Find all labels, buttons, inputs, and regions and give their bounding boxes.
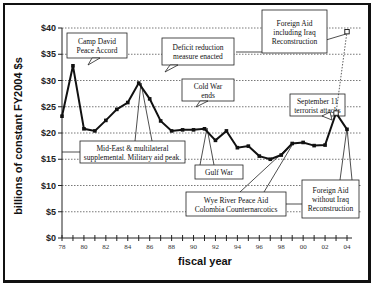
annotation-text: Foreign Aid xyxy=(276,19,312,28)
annotations: Camp DavidPeace AccordDeficit reductionm… xyxy=(62,10,359,218)
data-point xyxy=(345,128,349,132)
data-point xyxy=(93,129,97,133)
data-point xyxy=(192,128,196,132)
data-point xyxy=(104,119,108,123)
annotation-callout: Foreign Aidincluding IraqReconstruction xyxy=(262,10,327,53)
data-point xyxy=(225,129,229,133)
y-tick-label: $5 xyxy=(46,207,56,217)
y-axis-title: billions of constant FY2004 $s xyxy=(12,57,24,215)
x-tick-label: 86 xyxy=(146,243,154,251)
data-point xyxy=(170,129,174,133)
data-point xyxy=(290,142,294,146)
annotation-text: Wye River Peace Aid xyxy=(204,196,269,205)
y-tick-label: $35 xyxy=(41,49,56,59)
x-tick-label: 94 xyxy=(234,243,242,251)
x-tick-label: 80 xyxy=(80,243,88,251)
x-tick-label: 92 xyxy=(212,243,220,251)
y-tick-label: $0 xyxy=(46,233,56,243)
y-tick-label: $20 xyxy=(41,128,56,138)
data-point xyxy=(301,141,305,145)
annotation-callout: Camp DavidPeace Accord xyxy=(67,33,127,65)
x-tick-label: 02 xyxy=(322,243,330,251)
annotation-text: Reconstruction xyxy=(272,37,318,46)
annotation-text: Reconstruction xyxy=(308,204,354,213)
annotation-text: September 11 xyxy=(297,97,338,106)
data-point xyxy=(60,114,64,118)
annotation-text: Cold War xyxy=(194,82,223,91)
x-tick-label: 84 xyxy=(124,243,132,251)
annotation-text: Camp David xyxy=(78,37,116,46)
data-point xyxy=(247,144,251,148)
annotation-callout: Gulf War xyxy=(195,165,243,179)
data-point xyxy=(258,154,262,158)
data-point xyxy=(268,157,272,161)
x-tick-label: 00 xyxy=(300,243,308,251)
y-ticks: $0$5$10$15$20$25$30$35$40 xyxy=(41,23,62,243)
x-tick-label: 82 xyxy=(102,243,110,251)
annotation-text: Mid-East & multilateral xyxy=(96,144,168,153)
x-tick-label: 78 xyxy=(59,243,67,251)
callout-tail xyxy=(196,101,208,107)
annotation-callout: Wye River Peace AidColombia Counternarco… xyxy=(186,192,286,216)
data-point xyxy=(159,119,163,123)
x-tick-label: 04 xyxy=(344,243,352,251)
leader-line xyxy=(264,142,294,192)
annotation-text: without Iraq xyxy=(312,195,349,204)
data-point xyxy=(82,127,86,131)
data-point-iraq xyxy=(334,111,338,115)
annotation-text: supplemental. Military aid peak. xyxy=(84,153,181,162)
callout-tail xyxy=(88,58,100,65)
annotation-text: Gulf War xyxy=(205,168,233,177)
data-point xyxy=(71,64,75,68)
x-tick-label: 88 xyxy=(168,243,176,251)
annotation-text: Foreign Aid xyxy=(312,186,348,195)
x-tick-label: 96 xyxy=(256,243,264,251)
data-point xyxy=(126,101,130,105)
callout-tail xyxy=(165,65,178,72)
x-tick-label: 90 xyxy=(190,243,198,251)
x-axis-title: fiscal year xyxy=(178,255,233,267)
annotation-text: ends xyxy=(201,91,215,100)
annotation-callout: Deficit reductionmeasure enacted xyxy=(162,38,234,72)
annotation-text: measure enacted xyxy=(173,52,223,61)
data-point xyxy=(323,143,327,147)
data-point xyxy=(236,146,240,150)
data-point xyxy=(115,108,119,112)
y-tick-label: $10 xyxy=(41,181,56,191)
data-point xyxy=(203,127,207,131)
data-point xyxy=(137,81,141,85)
x-ticks: 7880828486889092949698000204 xyxy=(59,235,352,251)
y-tick-label: $40 xyxy=(41,23,56,33)
leader-line xyxy=(326,34,346,40)
annotation-text: Peace Accord xyxy=(76,46,117,55)
annotation-callout: Cold Warends xyxy=(182,79,234,107)
y-tick-label: $25 xyxy=(41,102,56,112)
data-point xyxy=(214,139,218,143)
leader-line xyxy=(347,128,352,180)
data-point xyxy=(312,144,316,148)
annotation-text: Deficit reduction xyxy=(172,43,223,52)
annotation-callout: Mid-East & multilateralsupplemental. Mil… xyxy=(80,141,185,163)
annotation-text: Colombia Counternarcotics xyxy=(195,205,278,214)
leader-line xyxy=(340,128,347,180)
data-point-iraq xyxy=(345,29,349,33)
annotation-text: including Iraq xyxy=(273,28,316,37)
y-tick-label: $15 xyxy=(41,154,56,164)
line-chart: $0$5$10$15$20$25$30$35$40 78808284868890… xyxy=(0,0,377,293)
y-tick-label: $30 xyxy=(41,76,56,86)
data-point xyxy=(181,128,185,132)
annotation-callout: Foreign Aidwithout IraqReconstruction xyxy=(302,180,359,218)
data-point xyxy=(148,97,152,101)
x-tick-label: 98 xyxy=(278,243,286,251)
leader-line xyxy=(135,83,141,141)
data-point xyxy=(279,153,283,157)
leader-line xyxy=(141,83,152,141)
